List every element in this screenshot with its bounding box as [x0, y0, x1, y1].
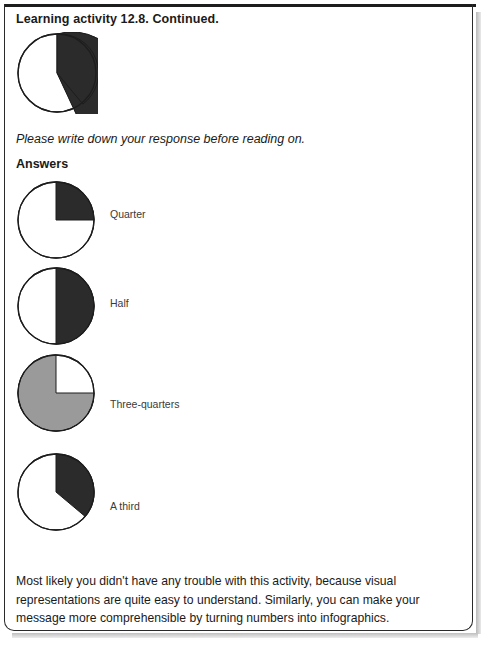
answer-pie-quarter [16, 180, 96, 260]
page-title: Learning activity 12.8. Continued. [16, 12, 219, 26]
answer-pie-a-third [16, 452, 96, 532]
page-root: Learning activity 12.8. Continued. Pleas… [0, 0, 495, 648]
box-shadow-bottom [12, 633, 478, 638]
answers-heading: Answers [16, 157, 68, 171]
prompt-text: Please write down your response before r… [16, 132, 305, 146]
answer-pie-quarter-label: Quarter [110, 208, 146, 220]
answer-pie-a-third-label: A third [110, 500, 140, 512]
closing-paragraph: Most likely you didn't have any trouble … [16, 572, 458, 628]
box-shadow-right [476, 12, 481, 634]
question-pie-chart [16, 32, 98, 114]
answer-pie-three-quarters-label: Three-quarters [110, 398, 179, 410]
answer-pie-three-quarters [16, 353, 96, 433]
answer-pie-half-label: Half [110, 297, 129, 309]
answer-pie-half [16, 266, 96, 346]
